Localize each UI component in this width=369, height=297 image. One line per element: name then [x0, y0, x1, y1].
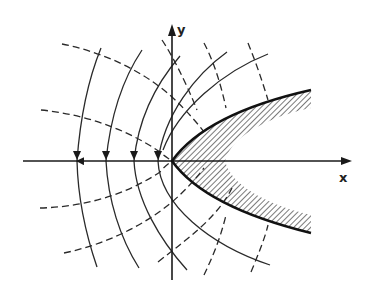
arrow-down-icon [154, 151, 162, 160]
arrow-down-icon [130, 151, 138, 160]
arrow-down-icon [102, 151, 110, 160]
x-axis-label: x [339, 170, 348, 185]
x-axis-arrow-icon [341, 157, 352, 165]
parabolic-field-diagram: x y [0, 0, 369, 297]
arrow-down-icon [73, 151, 81, 160]
y-axis-label: y [177, 22, 186, 37]
arrowheads [73, 151, 162, 160]
equipotential-lines [40, 40, 268, 275]
y-axis-arrow-icon [168, 24, 176, 36]
